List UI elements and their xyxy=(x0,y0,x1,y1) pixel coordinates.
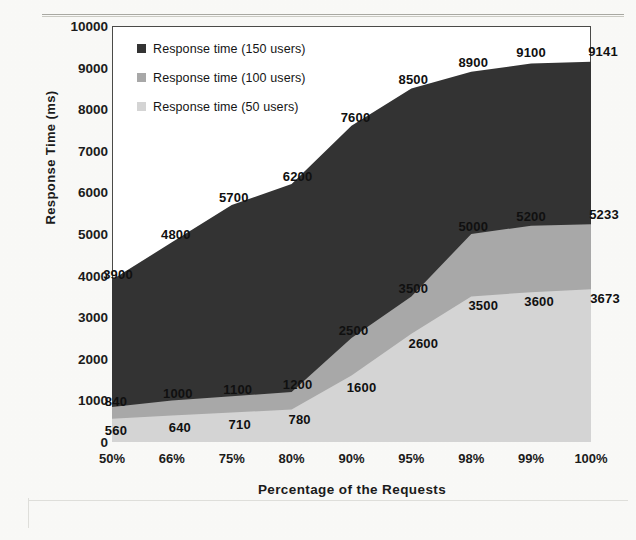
y-tick-label: 5000 xyxy=(44,227,108,242)
data-label: 3900 xyxy=(103,266,133,281)
legend-label: Response time (50 users) xyxy=(153,100,299,114)
data-label: 8900 xyxy=(458,54,488,69)
data-label: 2500 xyxy=(339,323,369,338)
data-label: 3500 xyxy=(399,281,429,296)
data-label: 1200 xyxy=(283,377,313,392)
y-tick-label: 1000 xyxy=(44,393,108,408)
data-label: 1000 xyxy=(163,386,193,401)
data-label: 9100 xyxy=(516,45,546,60)
legend-swatch-icon xyxy=(137,102,146,111)
data-label: 5233 xyxy=(589,207,619,222)
x-axis-title: Percentage of the Requests xyxy=(112,482,592,497)
x-tick-label: 98% xyxy=(458,451,484,466)
legend-item-1[interactable]: Response time (100 users) xyxy=(137,65,357,90)
data-label: 3673 xyxy=(590,291,620,306)
data-label: 9141 xyxy=(588,43,618,58)
x-tick-label: 50% xyxy=(99,451,125,466)
legend-label: Response time (100 users) xyxy=(153,71,306,85)
data-label: 5000 xyxy=(458,219,488,234)
y-axis-tick-labels: 0100020003000400050006000700080009000100… xyxy=(38,0,108,540)
y-tick-label: 2000 xyxy=(44,351,108,366)
data-label: 2600 xyxy=(409,335,439,350)
data-label: 640 xyxy=(169,420,191,435)
data-label: 6200 xyxy=(283,169,313,184)
y-tick-label: 7000 xyxy=(44,143,108,158)
x-tick-label: 90% xyxy=(338,451,364,466)
y-tick-label: 10000 xyxy=(44,19,108,34)
chart-legend: Response time (150 users)Response time (… xyxy=(137,36,357,123)
y-tick-label: 9000 xyxy=(44,60,108,75)
x-tick-label: 75% xyxy=(219,451,245,466)
data-label: 3500 xyxy=(468,298,498,313)
y-tick-label: 4000 xyxy=(44,268,108,283)
data-label: 1600 xyxy=(347,380,377,395)
data-label: 4800 xyxy=(161,227,191,242)
data-label: 5700 xyxy=(219,189,249,204)
legend-item-2[interactable]: Response time (50 users) xyxy=(137,94,357,119)
data-label: 7600 xyxy=(341,109,371,124)
data-label: 3600 xyxy=(524,294,554,309)
data-label: 710 xyxy=(229,417,251,432)
x-tick-label: 95% xyxy=(398,451,424,466)
y-tick-label: 8000 xyxy=(44,102,108,117)
x-tick-label: 99% xyxy=(518,451,544,466)
x-tick-label: 80% xyxy=(279,451,305,466)
data-label: 780 xyxy=(288,411,310,426)
data-label: 560 xyxy=(105,422,127,437)
legend-swatch-icon xyxy=(137,73,146,82)
legend-item-0[interactable]: Response time (150 users) xyxy=(137,36,357,61)
data-label: 1100 xyxy=(223,382,252,397)
area-chart: Response Time (ms) 010002000300040005000… xyxy=(0,0,636,540)
data-label: 840 xyxy=(105,394,127,409)
data-label: 5200 xyxy=(516,208,546,223)
x-tick-label: 66% xyxy=(159,451,185,466)
legend-label: Response time (150 users) xyxy=(153,42,306,56)
legend-swatch-icon xyxy=(137,44,146,53)
y-tick-label: 6000 xyxy=(44,185,108,200)
y-tick-label: 0 xyxy=(44,435,108,450)
y-tick-label: 3000 xyxy=(44,310,108,325)
data-label: 8500 xyxy=(399,72,429,87)
x-tick-label: 100% xyxy=(574,451,607,466)
